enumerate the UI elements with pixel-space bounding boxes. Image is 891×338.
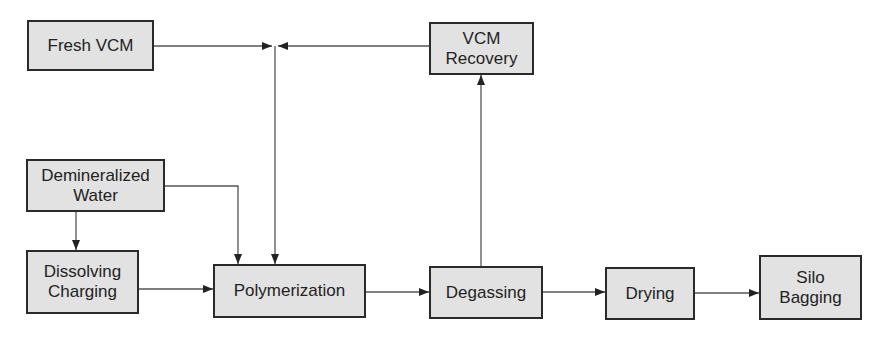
node-silo-bagging: Silo Bagging — [759, 255, 862, 320]
pvc-process-flow-diagram: Fresh VCM VCM Recovery Demineralized Wat… — [0, 0, 891, 338]
node-label: Dissolving Charging — [44, 262, 121, 302]
node-label: VCM Recovery — [446, 29, 518, 69]
node-fresh-vcm: Fresh VCM — [27, 20, 154, 71]
edge-demin-to-polymerization — [165, 186, 238, 264]
node-drying: Drying — [605, 267, 695, 320]
node-label: Drying — [625, 284, 674, 304]
node-dissolving-charging: Dissolving Charging — [26, 250, 139, 314]
node-label: Polymerization — [234, 281, 346, 301]
node-label: Fresh VCM — [48, 36, 134, 56]
node-label: Silo Bagging — [779, 268, 841, 308]
node-label: Degassing — [446, 283, 526, 303]
node-vcm-recovery: VCM Recovery — [429, 22, 534, 75]
node-degassing: Degassing — [429, 266, 543, 319]
node-label: Demineralized Water — [41, 166, 150, 206]
node-demineralized-water: Demineralized Water — [26, 159, 165, 212]
node-polymerization: Polymerization — [213, 264, 366, 318]
